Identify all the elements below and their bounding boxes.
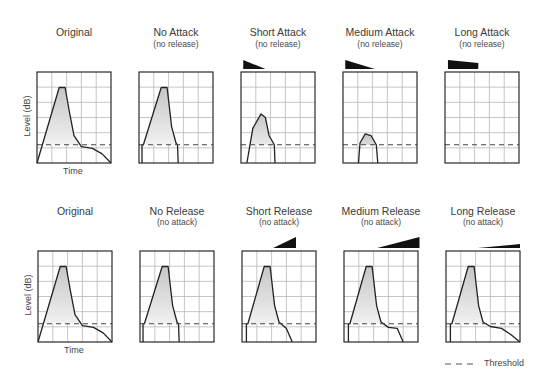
panel-short-release [242, 237, 316, 342]
panel-medium-release [344, 237, 419, 342]
medium-release-wedge-icon [377, 237, 419, 248]
medium-attack-wedge-icon [345, 60, 375, 69]
envelope-plots [0, 0, 545, 381]
panel-no-attack [139, 72, 213, 163]
short-release-wedge-icon [273, 237, 296, 248]
envelope-curve [38, 267, 112, 343]
panel-long-attack [445, 60, 519, 163]
panel-original [37, 72, 111, 163]
panel-long-release [446, 244, 520, 342]
panel-original [38, 251, 112, 342]
long-release-wedge-icon [478, 244, 520, 248]
long-attack-wedge-icon [448, 60, 478, 69]
panel-medium-attack [343, 60, 417, 163]
panel-no-release [140, 251, 214, 342]
figure: Original No Attack (no release) Short At… [0, 0, 545, 381]
panel-short-attack [241, 60, 315, 163]
envelope-curve [37, 88, 111, 164]
short-attack-wedge-icon [243, 60, 265, 69]
